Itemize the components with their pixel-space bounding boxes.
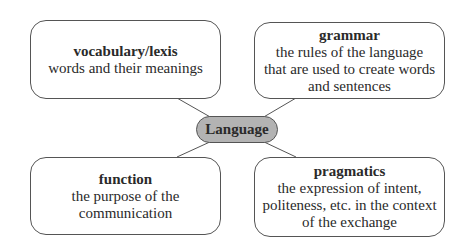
node-description: politeness, etc. in the context xyxy=(262,197,436,214)
node-description: the purpose of the xyxy=(72,188,180,205)
node-grammar: grammar the rules of the language that a… xyxy=(254,22,445,99)
node-description: the expression of intent, xyxy=(277,180,421,197)
node-description: and sentences xyxy=(308,78,391,95)
node-title: grammar xyxy=(319,27,380,44)
node-description: communication xyxy=(79,205,172,222)
node-description: of the exchange xyxy=(302,214,397,231)
node-vocabulary: vocabulary/lexis words and their meaning… xyxy=(30,20,221,99)
node-title: pragmatics xyxy=(314,163,386,180)
center-node-language: Language xyxy=(196,116,278,143)
node-title: vocabulary/lexis xyxy=(73,43,177,60)
mind-map-diagram: vocabulary/lexis words and their meaning… xyxy=(0,0,470,252)
node-description: words and their meanings xyxy=(48,60,203,77)
node-function: function the purpose of the communicatio… xyxy=(30,157,221,235)
node-title: function xyxy=(99,171,152,188)
node-description: that are used to create words xyxy=(264,61,435,78)
node-pragmatics: pragmatics the expression of intent, pol… xyxy=(254,157,445,237)
node-description: the rules of the language xyxy=(276,44,423,61)
